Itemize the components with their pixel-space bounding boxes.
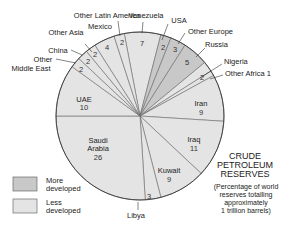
value-iraq: 11 [190, 144, 198, 153]
value-libya: 3 [147, 192, 151, 201]
label-iran: Iran [195, 99, 208, 108]
label-usa: USA [171, 16, 186, 25]
legend-less-developed-2: developed [46, 206, 81, 215]
value-china: 2 [86, 57, 90, 66]
value-other-europe: 3 [173, 45, 177, 54]
label-other-middle-east-2: Middle East [11, 64, 51, 73]
pie-chart: Other Latin America Venezuela USA Other … [0, 0, 292, 228]
legend-swatch-more-developed [13, 177, 37, 191]
svg-text:(Percentage of world: (Percentage of world [214, 183, 279, 191]
value-venezuela: 7 [140, 39, 144, 48]
value-mexico: 4 [105, 43, 109, 52]
legend-more-developed-2: developed [46, 184, 81, 193]
chart-subtitle: (Percentage of world reserves totalling … [214, 183, 279, 215]
label-russia: Russia [205, 40, 229, 49]
label-venezuela: Venezuela [128, 11, 164, 20]
value-iran: 9 [199, 108, 203, 117]
svg-text:approximately: approximately [224, 199, 268, 207]
value-usa: 2 [161, 43, 165, 52]
label-libya: Libya [127, 211, 146, 220]
legend: More developed Less developed [13, 176, 81, 215]
value-other-asia: 2 [93, 50, 97, 59]
label-other-asia: Other Asia [48, 28, 84, 37]
value-uae: 10 [80, 103, 88, 112]
svg-text:1 trillion barrels): 1 trillion barrels) [221, 207, 271, 215]
label-other-europe: Other Europe [188, 27, 233, 36]
label-nigeria: Nigeria [224, 57, 249, 66]
label-other-africa: Other Africa 1 [225, 69, 271, 78]
label-iraq: Iraq [188, 135, 201, 144]
label-saudi-2: Arabia [87, 144, 110, 153]
value-russia: 5 [185, 58, 189, 67]
label-china: China [48, 46, 68, 55]
chart-title: CRUDE PETROLEUM RESERVES [217, 151, 273, 179]
value-kuwait: 9 [167, 175, 171, 184]
label-other-middle-east-1: Other [34, 55, 53, 64]
value-other-middle-east: 2 [79, 65, 83, 74]
svg-text:reserves totalling: reserves totalling [220, 191, 273, 199]
label-mexico: Mexico [88, 22, 112, 31]
value-other-latin-america: 2 [120, 38, 124, 47]
value-saudi: 26 [94, 153, 102, 162]
value-nigeria: 2 [200, 73, 204, 82]
legend-swatch-less-developed [13, 199, 37, 213]
svg-text:RESERVES: RESERVES [221, 169, 270, 179]
label-kuwait: Kuwait [158, 166, 181, 175]
